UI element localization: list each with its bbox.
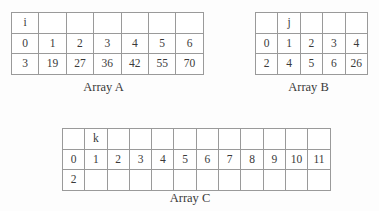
array-c-value-row: 2: [63, 170, 331, 191]
array-a-figure: i 0 1 2 3 4 5 6 3 19 27 36: [11, 12, 204, 75]
array-c-value-cell-9: [263, 170, 285, 191]
array-a-value-cell-3: 36: [94, 54, 121, 75]
array-c-variable-cell-11: [308, 129, 330, 150]
array-b-value-cell-2: 5: [300, 54, 322, 75]
array-c-variable-cell-2: [107, 129, 129, 150]
array-b-variable-row: j: [256, 13, 368, 34]
array-c-index-row: 0 1 2 3 4 5 6 7 8 9 10 11: [63, 149, 331, 170]
array-c-index-cell-9: 9: [263, 149, 285, 170]
array-a-variable-cell-4: [121, 13, 148, 34]
array-c-variable-cell-6: [196, 129, 218, 150]
array-c-value-cell-6: [196, 170, 218, 191]
array-c-variable-cell-8: [241, 129, 263, 150]
array-c-index-cell-7: 7: [219, 149, 241, 170]
array-c-variable-cell-3: [129, 129, 151, 150]
array-a-caption: Array A: [11, 80, 196, 95]
array-b-index-cell-2: 2: [300, 33, 322, 54]
array-a-variable-row: i: [12, 13, 204, 34]
array-c-index-cell-11: 11: [308, 149, 330, 170]
array-b-index-cell-3: 3: [323, 33, 345, 54]
array-a-value-row: 3 19 27 36 42 55 70: [12, 54, 204, 75]
array-c-value-cell-3: [129, 170, 151, 191]
array-a-index-cell-0: 0: [12, 33, 39, 54]
array-a-variable-cell-5: [148, 13, 175, 34]
array-b-value-cell-3: 6: [323, 54, 345, 75]
array-b-table: j 0 1 2 3 4 2 4 5 6 26: [255, 12, 368, 75]
array-c-value-cell-4: [152, 170, 174, 191]
array-c-variable-cell-1: k: [85, 129, 107, 150]
array-c-index-cell-2: 2: [107, 149, 129, 170]
array-a-index-cell-3: 3: [94, 33, 121, 54]
array-b-index-cell-4: 4: [345, 33, 367, 54]
array-c-figure: k 0 1 2 3 4 5 6 7 8: [62, 128, 331, 191]
array-c-index-cell-6: 6: [196, 149, 218, 170]
array-c-index-cell-1: 1: [85, 149, 107, 170]
array-c-variable-row: k: [63, 129, 331, 150]
array-a-index-cell-5: 5: [148, 33, 175, 54]
array-a-value-cell-6: 70: [176, 54, 203, 75]
array-b-index-cell-1: 1: [278, 33, 300, 54]
array-b-value-cell-0: 2: [256, 54, 278, 75]
array-a-variable-cell-3: [94, 13, 121, 34]
array-c-caption: Array C: [62, 191, 318, 206]
array-c-index-cell-4: 4: [152, 149, 174, 170]
array-a-index-cell-6: 6: [176, 33, 203, 54]
array-a-value-cell-0: 3: [12, 54, 39, 75]
array-c-value-cell-0: 2: [63, 170, 85, 191]
array-c-value-cell-7: [219, 170, 241, 191]
array-c-index-cell-3: 3: [129, 149, 151, 170]
array-c-value-cell-2: [107, 170, 129, 191]
array-a-index-cell-1: 1: [39, 33, 66, 54]
array-c-variable-cell-9: [263, 129, 285, 150]
array-c-variable-cell-10: [285, 129, 307, 150]
array-b-figure: j 0 1 2 3 4 2 4 5 6 26: [255, 12, 368, 75]
array-c-variable-cell-5: [174, 129, 196, 150]
array-a-variable-cell-1: [39, 13, 66, 34]
array-c-variable-cell-0: [63, 129, 85, 150]
array-c-value-cell-10: [285, 170, 307, 191]
array-b-index-row: 0 1 2 3 4: [256, 33, 368, 54]
array-a-value-cell-2: 27: [66, 54, 93, 75]
array-a-variable-cell-6: [176, 13, 203, 34]
array-b-value-cell-4: 26: [345, 54, 367, 75]
array-a-index-cell-4: 4: [121, 33, 148, 54]
array-c-index-cell-10: 10: [285, 149, 307, 170]
array-c-value-cell-11: [308, 170, 330, 191]
array-c-table: k 0 1 2 3 4 5 6 7 8: [62, 128, 331, 191]
array-a-variable-cell-0: i: [12, 13, 39, 34]
array-c-index-cell-0: 0: [63, 149, 85, 170]
array-c-variable-cell-7: [219, 129, 241, 150]
array-c-value-cell-1: [85, 170, 107, 191]
array-b-variable-cell-1: j: [278, 13, 300, 34]
array-a-table: i 0 1 2 3 4 5 6 3 19 27 36: [11, 12, 204, 75]
array-a-variable-cell-2: [66, 13, 93, 34]
array-b-variable-cell-4: [345, 13, 367, 34]
array-b-value-cell-1: 4: [278, 54, 300, 75]
array-a-index-cell-2: 2: [66, 33, 93, 54]
array-c-index-cell-8: 8: [241, 149, 263, 170]
array-b-value-row: 2 4 5 6 26: [256, 54, 368, 75]
array-c-value-cell-5: [174, 170, 196, 191]
array-b-variable-cell-2: [300, 13, 322, 34]
array-b-index-cell-0: 0: [256, 33, 278, 54]
array-a-value-cell-5: 55: [148, 54, 175, 75]
array-a-value-cell-4: 42: [121, 54, 148, 75]
array-b-variable-cell-0: [256, 13, 278, 34]
array-c-variable-cell-4: [152, 129, 174, 150]
array-b-caption: Array B: [255, 80, 362, 95]
array-b-variable-cell-3: [323, 13, 345, 34]
array-a-value-cell-1: 19: [39, 54, 66, 75]
array-c-value-cell-8: [241, 170, 263, 191]
array-a-index-row: 0 1 2 3 4 5 6: [12, 33, 204, 54]
array-c-index-cell-5: 5: [174, 149, 196, 170]
